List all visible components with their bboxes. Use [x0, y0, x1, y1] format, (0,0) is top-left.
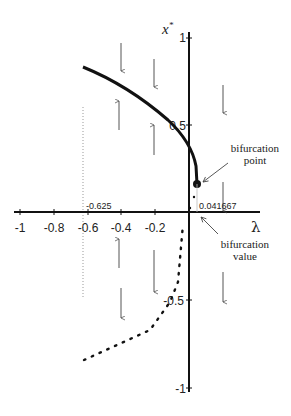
x-tick-label: -1 — [15, 221, 26, 235]
x-tick-label: -0.6 — [78, 221, 99, 235]
bifurcation-chart: -1 -0.8 -0.6 -0.4 -0.2 1 0.5 -0.5 -1 x* … — [0, 0, 291, 416]
y-axis-label: x* — [161, 20, 174, 37]
x-tick-label: -0.2 — [145, 221, 166, 235]
flow-arrows — [119, 43, 223, 318]
dot — [189, 207, 191, 209]
y-tick-label: -1 — [175, 382, 186, 396]
y-tick-label: 1 — [179, 31, 186, 45]
bifurcation-value-label: value — [233, 250, 257, 262]
bifurcation-value-label: bifurcation — [221, 238, 270, 250]
bifurcation-point-label: bifurcation — [231, 142, 280, 154]
bifurcation-point-pointer — [203, 163, 228, 182]
x-tick-label: -0.4 — [111, 221, 132, 235]
dot — [193, 196, 195, 198]
guide-value-label: -0.625 — [86, 201, 112, 211]
unstable-branch-curve — [84, 224, 183, 360]
bifurcation-value-pointer — [201, 217, 218, 234]
x-tick-label: -0.8 — [44, 221, 65, 235]
bifurcation-value-number: 0.041667 — [199, 201, 237, 211]
bifurcation-point-label: point — [244, 154, 267, 166]
x-axis-label: λ — [251, 218, 261, 236]
